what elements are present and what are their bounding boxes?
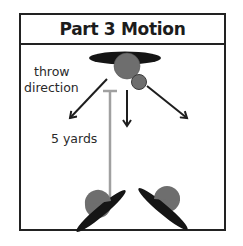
throw-label-line1: throw: [34, 64, 70, 79]
bottom-player-right: [135, 185, 190, 234]
top-player: [89, 52, 161, 90]
distance-label: 5 yards: [51, 131, 97, 146]
bottom-player-left: [73, 187, 128, 236]
motion-diagram: throw direction 5 yards: [0, 0, 243, 246]
distance-marker: [103, 91, 117, 199]
ball-icon: [132, 75, 147, 90]
throw-label-line2: direction: [24, 80, 79, 95]
throw-arrows: [70, 79, 187, 126]
arrow-right: [147, 86, 187, 118]
